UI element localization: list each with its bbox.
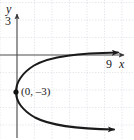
grid-lines bbox=[0, 0, 134, 140]
x-axis-tick-label: 9 bbox=[106, 58, 112, 70]
parabola-lower-branch bbox=[16, 92, 114, 129]
vertex-coordinate-label: (0, –3) bbox=[21, 86, 50, 97]
graph-canvas bbox=[0, 0, 134, 140]
axis-lines bbox=[0, 14, 124, 138]
x-axis-label: x bbox=[119, 58, 124, 70]
parabola-figure: y 3 x 9 (0, –3) bbox=[0, 0, 134, 140]
vertex-point bbox=[13, 89, 18, 94]
y-axis-tick-label: 3 bbox=[5, 15, 11, 27]
